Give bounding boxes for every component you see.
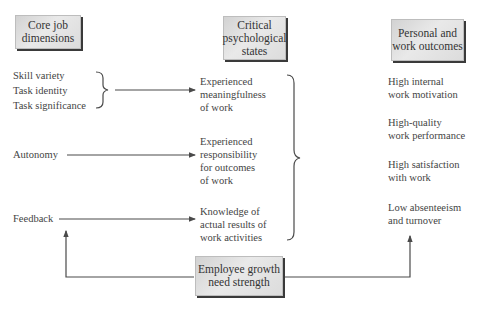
moderator-arrow-left	[66, 231, 194, 277]
state-knowledge-of-results: Knowledge of actual results of work acti…	[200, 205, 266, 244]
header-outcomes-line1: Personal and	[392, 27, 463, 40]
dimension-autonomy: Autonomy	[13, 148, 58, 161]
header-outcomes: Personal and work outcomes	[391, 19, 464, 61]
state-responsibility: Experienced responsibility for outcomes …	[200, 135, 257, 187]
outcome-performance: High-quality work performance	[388, 116, 465, 142]
header-core-line1: Core job	[22, 19, 74, 32]
moderator-arrow-right	[284, 236, 410, 277]
small-brace	[96, 72, 108, 108]
dimension-task-identity: Task identity	[13, 84, 67, 97]
header-critical-line1: Critical	[223, 19, 287, 32]
header-core-line2: dimensions	[22, 32, 74, 45]
header-critical-states: Critical psychological states	[223, 16, 286, 60]
dimension-task-significance: Task significance	[13, 99, 86, 112]
header-critical-line3: states	[223, 45, 287, 58]
state-meaningfulness: Experienced meaningfulness of work	[200, 75, 266, 114]
moderator-growth-need-strength: Employee growth need strength	[195, 256, 283, 296]
large-brace	[287, 75, 300, 240]
dimension-feedback: Feedback	[13, 212, 53, 225]
moderator-line1: Employee growth	[198, 263, 280, 276]
header-critical-line2: psychological	[223, 32, 287, 45]
moderator-line2: need strength	[198, 276, 280, 289]
outcome-absenteeism: Low absenteeism and turnover	[388, 201, 461, 227]
header-core-job-dimensions: Core job dimensions	[15, 15, 81, 49]
outcome-motivation: High internal work motivation	[388, 75, 458, 101]
dimension-skill-variety: Skill variety	[13, 69, 65, 82]
outcome-satisfaction: High satisfaction with work	[388, 158, 459, 184]
header-outcomes-line2: work outcomes	[392, 40, 463, 53]
